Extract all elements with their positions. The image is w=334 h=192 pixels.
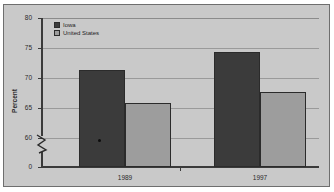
legend-swatch-united-states-icon <box>54 30 60 36</box>
gridline-80 <box>42 18 319 19</box>
bar-iowa-1997 <box>214 52 260 167</box>
x-tick-label-1997: 1997 <box>253 175 267 182</box>
y-tick-0: 0 <box>38 167 43 168</box>
chart-frame: Percent 80 75 70 65 <box>3 4 330 187</box>
y-tick-label-0: 0 <box>28 164 32 171</box>
y-tick-65: 65 <box>38 108 43 109</box>
y-tick-label-70: 70 <box>25 75 32 82</box>
plot-area: 80 75 70 65 60 0 <box>42 18 319 168</box>
y-tick-label-75: 75 <box>25 45 32 52</box>
bar-iowa-1989 <box>79 70 125 167</box>
bar-united-states-1997 <box>260 92 306 167</box>
legend-label-iowa: Iowa <box>63 22 76 28</box>
chart-figure: Percent 80 75 70 65 <box>0 0 334 192</box>
legend-label-united-states: United States <box>63 30 99 36</box>
y-tick-80: 80 <box>38 18 43 19</box>
legend-item-iowa: Iowa <box>54 22 99 28</box>
gridline-75 <box>42 48 319 49</box>
y-axis-line <box>41 18 43 136</box>
bar-marker-dot <box>98 139 101 142</box>
y-tick-70: 70 <box>38 78 43 79</box>
legend-swatch-iowa-icon <box>54 22 60 28</box>
y-axis-title: Percent <box>12 89 19 113</box>
axis-break-icon <box>34 134 52 154</box>
legend-item-united-states: United States <box>54 30 99 36</box>
y-tick-label-60: 60 <box>25 135 32 142</box>
x-tick-label-1989: 1989 <box>118 175 132 182</box>
y-tick-75: 75 <box>38 48 43 49</box>
bar-united-states-1989 <box>125 103 171 167</box>
y-tick-label-80: 80 <box>25 15 32 22</box>
y-tick-label-65: 65 <box>25 105 32 112</box>
x-tick-divider <box>180 168 181 171</box>
chart-legend: Iowa United States <box>54 22 99 36</box>
